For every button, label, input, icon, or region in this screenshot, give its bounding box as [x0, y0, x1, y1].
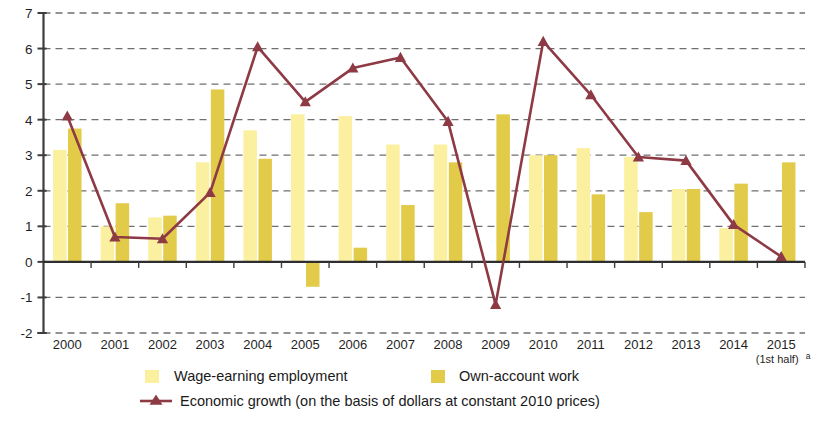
- x-axis-tick-label: 2008: [434, 337, 463, 352]
- legend-swatch-own-account-work: [431, 370, 445, 383]
- y-axis: 76543210-1-2: [20, 6, 46, 341]
- legend-swatch-wage-earning-employment: [145, 370, 159, 383]
- bar-own-account-work: [782, 162, 796, 262]
- x-axis-tick-label: 2007: [386, 337, 415, 352]
- x-axis-tick-label: 2002: [148, 337, 177, 352]
- bar-own-account-work: [116, 203, 130, 262]
- chart-container: 76543210-1-22000200120022003200420052006…: [0, 0, 819, 421]
- y-axis-tick-label: -1: [20, 290, 32, 305]
- x-axis-tick-label: 2001: [100, 337, 129, 352]
- bar-wage-earning-employment: [577, 148, 591, 262]
- x-axis-last-sublabel: (1st half): [756, 353, 799, 365]
- bar-own-account-work: [354, 248, 368, 262]
- bar-own-account-work: [544, 155, 558, 262]
- growth-marker-triangle: [62, 111, 73, 121]
- legend-label-own-account-work: Own-account work: [459, 368, 580, 384]
- x-axis-tick-label: 2006: [338, 337, 367, 352]
- bar-own-account-work: [449, 162, 463, 262]
- x-axis-tick-label: 2012: [624, 337, 653, 352]
- y-axis-tick-label: 2: [25, 184, 33, 199]
- growth-marker-triangle: [252, 41, 263, 51]
- bar-wage-earning-employment: [672, 189, 686, 262]
- legend-label-wage-earning-employment: Wage-earning employment: [174, 368, 348, 384]
- x-axis-tick-label: 2000: [53, 337, 82, 352]
- y-axis-tick-label: 5: [25, 77, 33, 92]
- x-axis-tick-label: 2005: [291, 337, 320, 352]
- bar-own-account-work: [258, 159, 272, 262]
- y-axis-tick-label: 0: [25, 255, 33, 270]
- x-axis-labels: 2000200120022003200420052006200720082009…: [53, 337, 811, 365]
- y-axis-tick-label: 6: [25, 42, 33, 57]
- x-axis-tick-label: 2009: [481, 337, 510, 352]
- x-axis-tick-label: 2004: [243, 337, 272, 352]
- bar-wage-earning-employment: [719, 228, 733, 262]
- bar-own-account-work: [592, 194, 606, 262]
- growth-markers: [62, 36, 787, 309]
- bar-wage-earning-employment: [339, 116, 353, 262]
- bar-wage-earning-employment: [624, 157, 638, 262]
- y-axis-tick-label: 3: [25, 148, 33, 163]
- chart-legend: Wage-earning employmentOwn-account workE…: [140, 368, 600, 409]
- y-axis-tick-label: 4: [25, 113, 33, 128]
- y-axis-tick-label: 1: [25, 219, 33, 234]
- bar-wage-earning-employment: [291, 114, 305, 262]
- bar-wage-earning-employment: [243, 130, 257, 262]
- growth-marker-triangle: [490, 299, 501, 309]
- gridlines: [44, 13, 806, 333]
- bar-own-account-work: [401, 205, 415, 262]
- bar-own-account-work: [734, 184, 748, 262]
- y-axis-tick-label: -2: [20, 326, 32, 341]
- bar-own-account-work: [687, 189, 701, 262]
- employment-growth-chart: 76543210-1-22000200120022003200420052006…: [0, 0, 819, 421]
- x-axis-tick-label: 2015: [767, 337, 796, 352]
- bar-wage-earning-employment: [529, 155, 543, 262]
- bar-wage-earning-employment: [53, 150, 67, 262]
- growth-marker-triangle: [538, 36, 549, 46]
- y-axis-tick-label: 7: [25, 6, 33, 21]
- x-axis-last-sublabel-group: (1st half)a: [756, 351, 811, 365]
- bar-own-account-work: [639, 212, 653, 262]
- x-axis-tick-label: 2013: [672, 337, 701, 352]
- legend-marker-economic-growth: [150, 395, 163, 405]
- bar-own-account-work: [211, 89, 225, 261]
- legend-label-economic-growth: Economic growth (on the basis of dollars…: [180, 393, 600, 409]
- bar-own-account-work: [306, 262, 320, 287]
- x-axis-tick-label: 2011: [577, 337, 605, 352]
- bar-wage-earning-employment: [196, 162, 210, 262]
- x-axis-tick-label: 2010: [529, 337, 558, 352]
- x-axis-footnote-marker: a: [806, 351, 811, 361]
- bar-wage-earning-employment: [434, 145, 448, 262]
- x-axis-tick-label: 2014: [719, 337, 748, 352]
- bar-wage-earning-employment: [386, 145, 400, 262]
- x-axis-tick-label: 2003: [196, 337, 225, 352]
- growth-marker-triangle: [395, 52, 406, 62]
